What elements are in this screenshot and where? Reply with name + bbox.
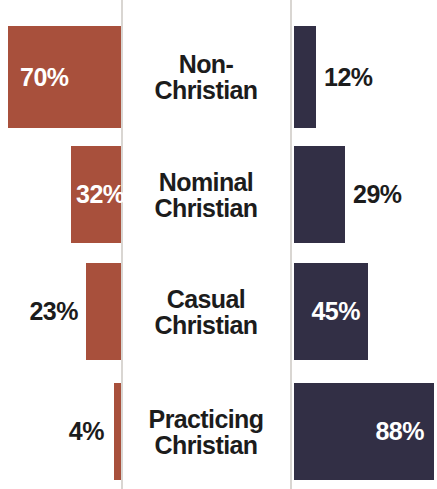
left-bar-value: 4% [24,383,104,480]
category-label-line2: Christian [155,312,258,338]
right-bar-value: 88% [375,417,434,446]
chart-row: 23% 45% Casual Christian [0,263,437,360]
category-label-line1: Practicing [149,406,264,432]
right-bar [294,146,345,243]
chart-row: 4% 88% Practicing Christian [0,383,437,480]
category-label: Casual Christian [128,263,284,360]
right-bar-value: 29% [353,146,433,243]
left-bar-value: 23% [0,263,78,360]
right-bar-value: 45% [311,297,368,326]
chart-row: 70% 12% Non-Christian [0,26,437,128]
left-bar: 32% [71,146,121,243]
left-bar [86,263,121,360]
category-label: Nominal Christian [128,146,284,243]
category-label-line1: Non-Christian [128,51,284,103]
left-bar-value: 70% [8,63,69,92]
chart-row: 32% 29% Nominal Christian [0,146,437,243]
right-bar [294,26,316,128]
left-bar [114,383,121,480]
category-label-line1: Casual [167,286,245,312]
left-bar-value: 32% [71,180,125,209]
right-bar-value: 12% [324,26,404,128]
left-bar: 70% [8,26,121,128]
category-label: Practicing Christian [128,383,284,480]
category-label-line2: Christian [155,195,258,221]
category-label-line1: Nominal [159,169,253,195]
category-label-line2: Christian [155,432,258,458]
right-bar: 45% [294,263,368,360]
category-label: Non-Christian [128,26,284,128]
right-bar: 88% [294,383,434,480]
back-to-back-bar-chart: 70% 12% Non-Christian 32% 29% Nominal Ch… [0,0,437,489]
